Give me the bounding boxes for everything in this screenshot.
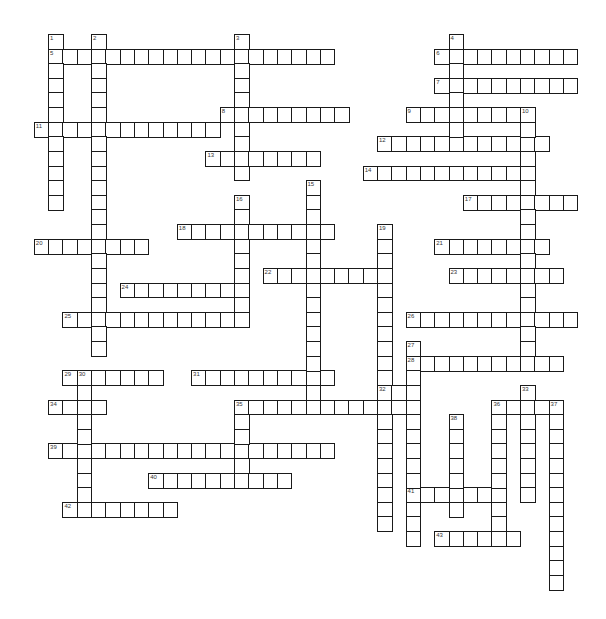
crossword-cell[interactable] [549, 575, 565, 591]
crossword-cell[interactable] [48, 180, 64, 196]
crossword-cell[interactable] [77, 400, 93, 416]
crossword-cell[interactable] [463, 107, 479, 123]
crossword-cell[interactable] [534, 239, 550, 255]
crossword-cell[interactable]: 16 [234, 195, 250, 211]
crossword-cell[interactable] [491, 78, 507, 94]
crossword-cell[interactable] [234, 63, 250, 79]
crossword-cell[interactable] [534, 356, 550, 372]
crossword-cell[interactable] [377, 312, 393, 328]
crossword-cell[interactable] [406, 502, 422, 518]
crossword-cell[interactable] [534, 312, 550, 328]
crossword-cell[interactable] [520, 312, 536, 328]
crossword-cell[interactable] [420, 107, 436, 123]
crossword-cell[interactable] [563, 195, 579, 211]
crossword-cell[interactable] [306, 107, 322, 123]
crossword-cell[interactable] [134, 502, 150, 518]
crossword-cell[interactable] [234, 136, 250, 152]
crossword-cell[interactable] [234, 443, 250, 459]
crossword-cell[interactable] [363, 400, 379, 416]
crossword-cell[interactable]: 41 [406, 487, 422, 503]
crossword-cell[interactable] [134, 49, 150, 65]
crossword-cell[interactable] [205, 224, 221, 240]
crossword-cell[interactable] [263, 151, 279, 167]
crossword-cell[interactable] [477, 356, 493, 372]
crossword-cell[interactable] [191, 49, 207, 65]
crossword-cell[interactable] [449, 78, 465, 94]
crossword-cell[interactable]: 34 [48, 400, 64, 416]
crossword-cell[interactable] [220, 49, 236, 65]
crossword-cell[interactable] [148, 502, 164, 518]
crossword-cell[interactable] [463, 356, 479, 372]
crossword-cell[interactable] [549, 458, 565, 474]
crossword-cell[interactable] [306, 443, 322, 459]
crossword-cell[interactable] [91, 180, 107, 196]
crossword-cell[interactable] [263, 107, 279, 123]
crossword-cell[interactable] [248, 370, 264, 386]
crossword-cell[interactable] [220, 224, 236, 240]
crossword-cell[interactable] [477, 78, 493, 94]
crossword-cell[interactable] [449, 49, 465, 65]
crossword-cell[interactable] [277, 49, 293, 65]
crossword-cell[interactable] [62, 239, 78, 255]
crossword-cell[interactable] [48, 107, 64, 123]
crossword-cell[interactable] [248, 400, 264, 416]
crossword-cell[interactable] [491, 458, 507, 474]
crossword-cell[interactable] [205, 443, 221, 459]
crossword-cell[interactable] [520, 239, 536, 255]
crossword-cell[interactable]: 24 [120, 283, 136, 299]
crossword-cell[interactable] [520, 136, 536, 152]
crossword-cell[interactable] [491, 414, 507, 430]
crossword-cell[interactable] [148, 443, 164, 459]
crossword-cell[interactable]: 1 [48, 34, 64, 50]
crossword-cell[interactable] [491, 195, 507, 211]
crossword-cell[interactable] [377, 341, 393, 357]
crossword-cell[interactable] [334, 400, 350, 416]
crossword-cell[interactable] [506, 136, 522, 152]
crossword-cell[interactable] [91, 78, 107, 94]
crossword-cell[interactable] [406, 473, 422, 489]
crossword-cell[interactable] [377, 443, 393, 459]
crossword-cell[interactable] [520, 253, 536, 269]
crossword-cell[interactable] [191, 224, 207, 240]
crossword-cell[interactable] [291, 268, 307, 284]
crossword-cell[interactable] [205, 122, 221, 138]
crossword-cell[interactable] [306, 224, 322, 240]
crossword-cell[interactable] [234, 429, 250, 445]
crossword-cell[interactable] [306, 312, 322, 328]
crossword-cell[interactable] [320, 268, 336, 284]
crossword-cell[interactable]: 7 [434, 78, 450, 94]
crossword-cell[interactable] [91, 209, 107, 225]
crossword-cell[interactable] [549, 78, 565, 94]
crossword-cell[interactable] [477, 239, 493, 255]
crossword-cell[interactable] [463, 312, 479, 328]
crossword-cell[interactable] [520, 151, 536, 167]
crossword-cell[interactable] [120, 370, 136, 386]
crossword-cell[interactable]: 25 [62, 312, 78, 328]
crossword-cell[interactable] [234, 78, 250, 94]
crossword-cell[interactable]: 6 [434, 49, 450, 65]
crossword-cell[interactable] [163, 122, 179, 138]
crossword-cell[interactable] [306, 283, 322, 299]
crossword-cell[interactable] [506, 268, 522, 284]
crossword-cell[interactable] [177, 283, 193, 299]
crossword-cell[interactable] [520, 166, 536, 182]
crossword-cell[interactable] [463, 166, 479, 182]
crossword-cell[interactable] [91, 151, 107, 167]
crossword-cell[interactable] [549, 531, 565, 547]
crossword-cell[interactable] [520, 326, 536, 342]
crossword-cell[interactable] [449, 63, 465, 79]
crossword-cell[interactable] [506, 195, 522, 211]
crossword-cell[interactable]: 21 [434, 239, 450, 255]
crossword-cell[interactable] [234, 107, 250, 123]
crossword-cell[interactable] [491, 166, 507, 182]
crossword-cell[interactable] [291, 224, 307, 240]
crossword-cell[interactable]: 11 [34, 122, 50, 138]
crossword-cell[interactable] [363, 268, 379, 284]
crossword-cell[interactable] [205, 283, 221, 299]
crossword-cell[interactable] [306, 370, 322, 386]
crossword-cell[interactable] [234, 473, 250, 489]
crossword-cell[interactable] [220, 473, 236, 489]
crossword-cell[interactable] [48, 63, 64, 79]
crossword-cell[interactable] [549, 516, 565, 532]
crossword-cell[interactable] [520, 195, 536, 211]
